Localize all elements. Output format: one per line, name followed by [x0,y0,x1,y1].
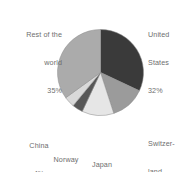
label-line1: China [21,141,57,150]
label-value: 32% [148,86,188,95]
label-line1: Rest of the [2,30,62,39]
slice-label-rest-of-the-world: Rest of the world 35% [2,12,62,113]
label-line1: Japan [84,160,120,169]
slice-label-japan: Japan 12% [84,142,120,172]
label-line2: world [2,58,62,67]
slice-label-china: China 4% [21,123,57,172]
label-line1: United [148,30,188,39]
label-line2: land [148,167,188,172]
pie-chart: Rest of the world 35% United States 32% … [0,0,190,172]
slice-label-switzerland: Switzer- land 13% [148,121,188,172]
label-line2: States [148,58,188,67]
slice-label-united-states: United States 32% [148,12,188,113]
pie-slices-group [58,29,144,115]
label-value: 4% [21,169,57,172]
label-value: 35% [2,86,62,95]
label-line1: Switzer- [148,139,188,148]
